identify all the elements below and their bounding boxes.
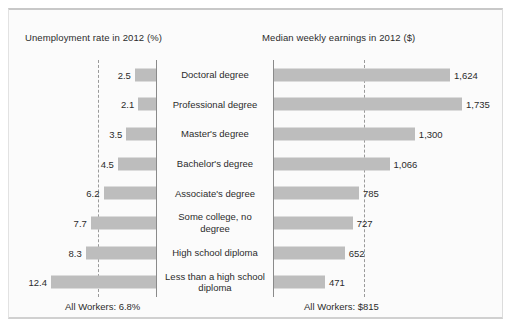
category-label: Master's degree [165, 119, 265, 149]
unemployment-bar [135, 68, 156, 81]
category-label: Bachelor's degree [165, 149, 265, 179]
unemployment-value-label: 6.2 [86, 188, 99, 199]
unemployment-value-label: 4.5 [101, 158, 114, 169]
category-label: Some college, no degree [165, 208, 265, 238]
left-chart-footer: All Workers: 6.8% [65, 301, 140, 312]
category-label: Doctoral degree [165, 60, 265, 90]
earnings-value-label: 1,066 [394, 158, 418, 169]
earnings-bar [274, 216, 353, 229]
earnings-row: 785 [265, 179, 504, 209]
earnings-bar [274, 276, 325, 289]
median-earnings-chart: 1,6241,7351,3001,066785727652471 [265, 60, 504, 297]
earnings-row: 1,066 [265, 149, 504, 179]
earnings-value-label: 652 [349, 247, 365, 258]
unemployment-value-label: 8.3 [69, 247, 82, 258]
unemployment-bar [118, 157, 156, 170]
earnings-bar [274, 157, 390, 170]
unemployment-value-label: 7.7 [74, 217, 87, 228]
earnings-value-label: 1,300 [419, 129, 443, 140]
earnings-bar [274, 68, 450, 81]
category-label-column: Doctoral degreeProfessional degreeMaster… [165, 60, 265, 297]
earnings-row: 1,624 [265, 60, 504, 90]
unemployment-value-label: 2.5 [118, 69, 131, 80]
unemployment-value-label: 3.5 [109, 129, 122, 140]
unemployment-bar [86, 246, 156, 259]
chart-panel: Unemployment rate in 2012 (%) Median wee… [8, 8, 503, 319]
earnings-value-label: 785 [363, 188, 379, 199]
earnings-value-label: 1,735 [466, 99, 490, 110]
unemployment-value-label: 12.4 [29, 277, 48, 288]
category-label: Associate's degree [165, 179, 265, 209]
category-label: High school diploma [165, 238, 265, 268]
earnings-value-label: 471 [329, 277, 345, 288]
left-chart-title: Unemployment rate in 2012 (%) [25, 32, 162, 43]
earnings-value-label: 727 [357, 217, 373, 228]
category-label: Less than a high school diploma [165, 267, 265, 297]
earnings-row: 1,735 [265, 90, 504, 120]
earnings-row: 1,300 [265, 119, 504, 149]
earnings-bar [274, 128, 415, 141]
unemployment-bar [51, 276, 156, 289]
category-label: Professional degree [165, 90, 265, 120]
unemployment-bar [91, 216, 156, 229]
earnings-bar [274, 98, 462, 111]
earnings-row: 471 [265, 267, 504, 297]
earnings-bar [274, 246, 345, 259]
earnings-bar [274, 187, 359, 200]
earnings-value-label: 1,624 [454, 69, 478, 80]
unemployment-bar [126, 128, 156, 141]
unemployment-bar [138, 98, 156, 111]
unemployment-bar [104, 187, 157, 200]
right-chart-title: Median weekly earnings in 2012 ($) [262, 32, 415, 43]
right-chart-footer: All Workers: $815 [304, 301, 379, 312]
unemployment-value-label: 2.1 [121, 99, 134, 110]
earnings-row: 652 [265, 238, 504, 268]
earnings-row: 727 [265, 208, 504, 238]
